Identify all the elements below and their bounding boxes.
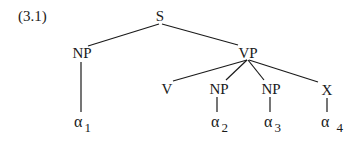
syntax-tree-diagram: (3.1) S NP VP V NP NP X α1 α2 α3 α4 [0,0,362,142]
edge-vp-np3 [248,60,264,80]
edge-s-np [88,24,159,46]
tree-edges [0,0,362,142]
node-x: X [322,83,333,98]
leaf-alpha-4: α4 [321,114,343,130]
node-np-object2: NP [261,82,280,97]
node-np-subject: NP [72,46,91,61]
leaf-alpha-3: α3 [264,114,281,130]
node-s: S [156,9,164,24]
alpha-symbol: α [321,113,329,130]
leaf-alpha-2: α2 [211,114,228,130]
leaf-subscript: 1 [84,120,91,135]
node-v: V [162,82,173,97]
leaf-subscript: 2 [221,120,228,135]
edge-s-vp [162,24,238,45]
edge-vp-x [249,60,318,82]
node-vp: VP [238,46,257,61]
node-np-object1: NP [209,82,228,97]
leaf-alpha-1: α1 [74,114,91,130]
alpha-symbol: α [264,113,272,130]
leaf-subscript: 3 [274,120,281,135]
example-number: (3.1) [18,9,47,24]
leaf-subscript: 4 [336,120,343,135]
alpha-symbol: α [74,113,82,130]
alpha-symbol: α [211,113,219,130]
